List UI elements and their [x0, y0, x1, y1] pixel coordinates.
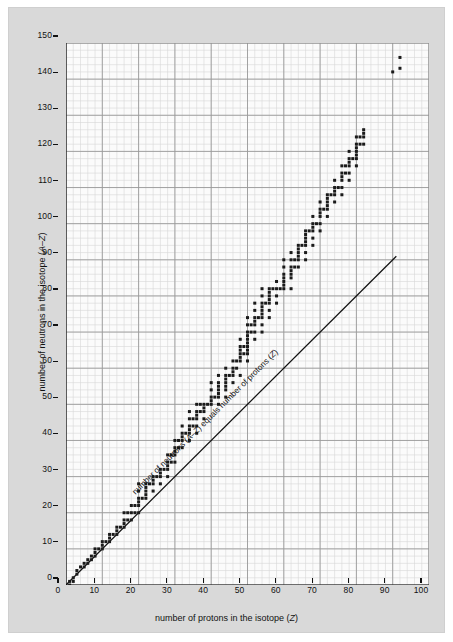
- x-tick-label: 100: [401, 585, 441, 595]
- y-tick-mark: [53, 180, 58, 181]
- x-tick-mark: [348, 578, 349, 583]
- x-tick-mark: [130, 578, 131, 583]
- x-tick-label: 10: [74, 585, 114, 595]
- x-tick-mark: [166, 578, 167, 583]
- x-tick-mark: [239, 578, 240, 583]
- x-tick-mark: [420, 578, 421, 583]
- y-tick-mark: [53, 216, 58, 217]
- y-tick-label: 150: [14, 30, 52, 40]
- y-tick-mark: [53, 469, 58, 470]
- x-tick-mark: [275, 578, 276, 583]
- x-tick-label: 0: [38, 585, 78, 595]
- x-tick-label: 30: [147, 585, 187, 595]
- x-tick-label: 50: [220, 585, 260, 595]
- y-tick-mark: [53, 397, 58, 398]
- plot-area: [66, 43, 429, 585]
- x-tick-mark: [94, 578, 95, 583]
- y-tick-mark: [53, 72, 58, 73]
- x-tick-label: 60: [256, 585, 296, 595]
- x-tick-label: 70: [292, 585, 332, 595]
- x-axis-title: number of protons in the isotope (Z): [8, 613, 445, 623]
- y-tick-label: 0: [14, 572, 52, 582]
- x-tick-mark: [312, 578, 313, 583]
- figure-card: 0102030405060708090100110120130140150010…: [8, 7, 445, 633]
- y-axis-title: number of neutrons in the isotope (A–Z): [37, 52, 47, 572]
- x-tick-label: 40: [183, 585, 223, 595]
- y-tick-mark: [53, 324, 58, 325]
- x-tick-mark: [203, 578, 204, 583]
- scatter-points: [66, 43, 429, 585]
- x-tick-label: 20: [111, 585, 151, 595]
- x-tick-label: 80: [328, 585, 368, 595]
- y-tick-mark: [53, 361, 58, 362]
- y-tick-mark: [53, 108, 58, 109]
- y-tick-mark: [53, 541, 58, 542]
- y-tick-mark: [53, 252, 58, 253]
- x-tick-mark: [57, 578, 58, 583]
- figure-page: 0102030405060708090100110120130140150010…: [0, 0, 453, 642]
- x-tick-label: 90: [365, 585, 405, 595]
- y-tick-mark: [53, 505, 58, 506]
- x-tick-mark: [384, 578, 385, 583]
- y-tick-mark: [53, 433, 58, 434]
- y-tick-mark: [53, 288, 58, 289]
- y-tick-mark: [53, 144, 58, 145]
- y-tick-mark: [53, 35, 58, 36]
